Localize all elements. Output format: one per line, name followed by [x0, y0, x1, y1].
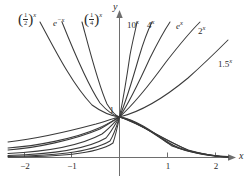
curve-quarter-x	[40, 22, 228, 157]
base-1-5: 1.5	[218, 59, 229, 69]
fraction-close-paren: )	[94, 13, 99, 25]
curve-label-ten-x: 10x	[127, 19, 139, 30]
y-axis-label: y	[113, 2, 117, 12]
fraction-open-paren: (	[18, 13, 23, 25]
x-axis-label: x	[239, 151, 243, 161]
exponential-functions-figure: (12)x e−x (14)x 10x 4x ex 2x 1.5x y x −2…	[0, 0, 249, 185]
curve-onefive-x	[8, 40, 228, 150]
exponent-x: x	[229, 57, 232, 64]
x-tick-label--2: −2	[15, 162, 35, 171]
x-axis-arrowhead	[228, 154, 236, 160]
y-tick-label-1: 1	[106, 106, 114, 115]
curve-label-e-neg-x: e−x	[53, 17, 64, 28]
exponent-neg-x: −x	[57, 16, 64, 23]
curves-group	[8, 22, 228, 157]
x-tick-label-1: 1	[158, 162, 178, 171]
exponent-x: x	[203, 24, 206, 31]
curve-half-x	[82, 22, 228, 157]
base-10: 10	[127, 20, 136, 30]
curve-label-quarter-x: (14)x	[84, 12, 102, 27]
fraction-open-paren: (	[84, 13, 89, 25]
exponent-x: x	[136, 18, 139, 25]
curve-label-two-x: 2x	[198, 25, 205, 36]
x-tick-label-2: 2	[206, 162, 226, 171]
graph-canvas	[0, 0, 249, 185]
curve-label-e-x: ex	[176, 20, 183, 31]
exponent-x: x	[152, 18, 155, 25]
curve-label-half-x: (12)x	[18, 12, 36, 27]
curve-label-four-x: 4x	[147, 19, 154, 30]
exponent-x: x	[180, 19, 183, 26]
exponent-x: x	[33, 11, 36, 18]
x-tick-label--1: −1	[62, 162, 82, 171]
curve-two-x	[8, 22, 200, 154]
exponent-x: x	[99, 11, 102, 18]
curve-label-onefive-x: 1.5x	[218, 58, 232, 69]
fraction-close-paren: )	[28, 13, 33, 25]
